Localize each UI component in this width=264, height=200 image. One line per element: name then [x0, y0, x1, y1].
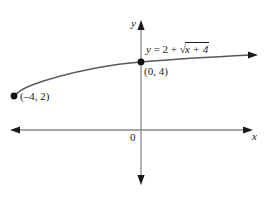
- equation-constant: 2: [163, 43, 169, 55]
- radicand: x + 4: [185, 42, 209, 55]
- y-axis-label: y: [131, 18, 136, 29]
- equation-plus: +: [171, 43, 177, 55]
- figure-container: y x 0 (0, 4) (–4, 2) y = 2 + √x + 4: [0, 0, 264, 200]
- point-label-y-intercept: (0, 4): [144, 66, 168, 77]
- y-axis: [137, 20, 144, 185]
- function-curve: [14, 52, 258, 96]
- equation-equals-sign: =: [154, 43, 160, 55]
- x-axis-label: x: [252, 131, 257, 142]
- point-marker-left-endpoint: [11, 93, 18, 100]
- radical-expression: √x + 4: [180, 44, 209, 55]
- point-label-left-endpoint: (–4, 2): [20, 91, 49, 102]
- equation-label: y = 2 + √x + 4: [146, 44, 209, 55]
- origin-label: 0: [130, 132, 136, 143]
